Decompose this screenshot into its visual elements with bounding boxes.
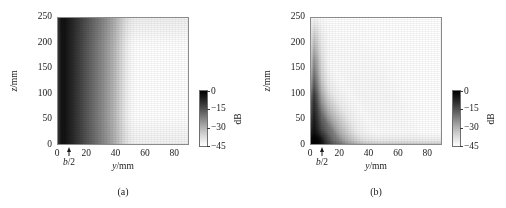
x-axis-unit-a: /mm (116, 161, 133, 171)
arrow-stem (322, 151, 323, 156)
figure-container: 0 50 100 150 200 250 0 20 40 60 80 z/mm … (0, 0, 506, 208)
x-tick-label-b-20: 20 (335, 149, 345, 159)
x-tick-label-a-0: 0 (55, 149, 60, 159)
x-tick-label-b-0: 0 (308, 149, 313, 159)
x-tick-label-a-40: 40 (111, 149, 121, 159)
x-tick-b-80 (427, 144, 428, 145)
cb-label-b-15: −15 (464, 105, 479, 115)
y-tick-label-b-200: 200 (272, 38, 305, 48)
y-tick-label-b-250: 250 (272, 12, 305, 22)
x-tick-a-40 (116, 144, 117, 145)
x-axis-title-a: y/mm (112, 161, 134, 171)
cb-tick-a-15 (207, 109, 210, 110)
x-tick-b-0 (311, 144, 312, 145)
y-axis-var-a: z (9, 88, 19, 92)
cb-tick-b-45 (460, 146, 463, 147)
b2-annotation-label-a: b/2 (63, 157, 75, 167)
cb-label-a-30: −30 (211, 123, 226, 133)
y-axis-unit-a: /mm (9, 70, 19, 87)
y-tick-label-b-150: 150 (272, 63, 305, 73)
y-tick-label-a-100: 100 (19, 89, 52, 99)
x-tick-a-20 (87, 144, 88, 145)
colorbar-a: 0 −15 −30 −45 (199, 90, 208, 147)
panel-b: 0 50 100 150 200 250 0 20 40 60 80 z/mm … (253, 0, 506, 208)
x-tick-label-b-80: 80 (423, 149, 433, 159)
b2-annotation-label-b: b/2 (316, 157, 328, 167)
cb-label-b-30: −30 (464, 123, 479, 133)
x-tick-b-60 (398, 144, 399, 145)
cb-tick-a-0 (207, 91, 210, 92)
y-tick-label-b-0: 0 (272, 140, 305, 150)
x-tick-label-b-60: 60 (393, 149, 403, 159)
y-tick-b-250 (310, 18, 311, 19)
y-tick-a-150 (57, 68, 58, 69)
panel-a: 0 50 100 150 200 250 0 20 40 60 80 z/mm … (0, 0, 253, 208)
cb-tick-b-15 (460, 109, 463, 110)
y-tick-b-0 (310, 144, 311, 145)
y-axis-title-a: z/mm (9, 70, 19, 91)
x-axis-unit-b: /mm (369, 161, 386, 171)
x-tick-a-80 (174, 144, 175, 145)
cb-label-b-45: −45 (464, 142, 479, 152)
y-axis-title-b: z/mm (262, 70, 272, 91)
cb-tick-b-0 (460, 91, 463, 92)
y-tick-label-a-200: 200 (19, 38, 52, 48)
y-axis-unit-b: /mm (262, 70, 272, 87)
y-tick-label-a-150: 150 (19, 63, 52, 73)
colorbar-b: 0 −15 −30 −45 (452, 90, 461, 147)
colorbar-unit-b: dB (486, 113, 496, 124)
x-tick-a-60 (145, 144, 146, 145)
x-tick-label-a-60: 60 (140, 149, 150, 159)
subcaption-a: (a) (117, 186, 128, 197)
y-tick-a-50 (57, 119, 58, 120)
y-tick-b-150 (310, 68, 311, 69)
y-tick-a-0 (57, 144, 58, 145)
cb-label-a-15: −15 (211, 105, 226, 115)
x-tick-label-b-40: 40 (364, 149, 374, 159)
y-tick-label-a-50: 50 (19, 114, 52, 124)
colorbar-gradient-a: 0 −15 −30 −45 (199, 90, 208, 147)
heatmap-noise-a (58, 18, 188, 144)
y-tick-b-200 (310, 43, 311, 44)
heatmap-image-b (311, 18, 441, 144)
y-tick-b-100 (310, 94, 311, 95)
x-tick-label-a-20: 20 (82, 149, 92, 159)
colorbar-gradient-b: 0 −15 −30 −45 (452, 90, 461, 147)
x-tick-b-40 (369, 144, 370, 145)
b2-unit-b: /2 (321, 157, 328, 167)
cb-label-a-45: −45 (211, 142, 226, 152)
y-tick-a-200 (57, 43, 58, 44)
cb-label-a-0: 0 (211, 87, 216, 97)
arrow-stem (69, 151, 70, 156)
y-tick-a-250 (57, 18, 58, 19)
x-tick-a-0 (58, 144, 59, 145)
y-tick-a-100 (57, 94, 58, 95)
cb-tick-a-45 (207, 146, 210, 147)
y-tick-label-b-100: 100 (272, 89, 305, 99)
y-tick-label-b-50: 50 (272, 114, 305, 124)
cb-label-b-0: 0 (464, 87, 469, 97)
cb-tick-b-30 (460, 128, 463, 129)
x-tick-label-a-80: 80 (170, 149, 180, 159)
heatmap-plot-b (310, 17, 442, 145)
y-axis-var-b: z (262, 88, 272, 92)
cb-tick-a-30 (207, 128, 210, 129)
x-tick-b-20 (340, 144, 341, 145)
x-axis-title-b: y/mm (365, 161, 387, 171)
subcaption-b: (b) (370, 186, 382, 197)
heatmap-plot-a (57, 17, 189, 145)
y-tick-label-a-0: 0 (19, 140, 52, 150)
heatmap-image-a (58, 18, 188, 144)
colorbar-unit-a: dB (233, 113, 243, 124)
y-tick-label-a-250: 250 (19, 12, 52, 22)
heatmap-noise-b (311, 18, 441, 144)
b2-unit-a: /2 (68, 157, 75, 167)
y-tick-b-50 (310, 119, 311, 120)
